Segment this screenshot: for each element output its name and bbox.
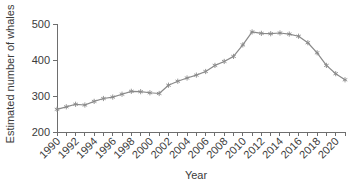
y-tick-label: 200	[32, 126, 50, 138]
series-line	[57, 32, 345, 109]
data-point-marker	[213, 63, 218, 68]
data-point-marker	[343, 77, 348, 82]
y-tick-label: 500	[32, 18, 50, 30]
y-tick-label: 400	[32, 54, 50, 66]
x-tick-label: 2020	[315, 135, 341, 161]
x-axis: 1990199219941996199820002002200420062008…	[37, 132, 345, 161]
y-axis-title: Estimated number of whales	[4, 4, 16, 143]
whale-population-line-chart: 200300400500 199019921994199619982000200…	[0, 0, 355, 184]
x-axis-title: Year	[185, 169, 208, 181]
data-point-marker	[222, 59, 227, 64]
series-whale-estimates	[55, 29, 348, 112]
y-axis: 200300400500	[32, 18, 57, 138]
y-tick-label: 300	[32, 90, 50, 102]
chart-canvas: 200300400500 199019921994199619982000200…	[0, 0, 355, 184]
